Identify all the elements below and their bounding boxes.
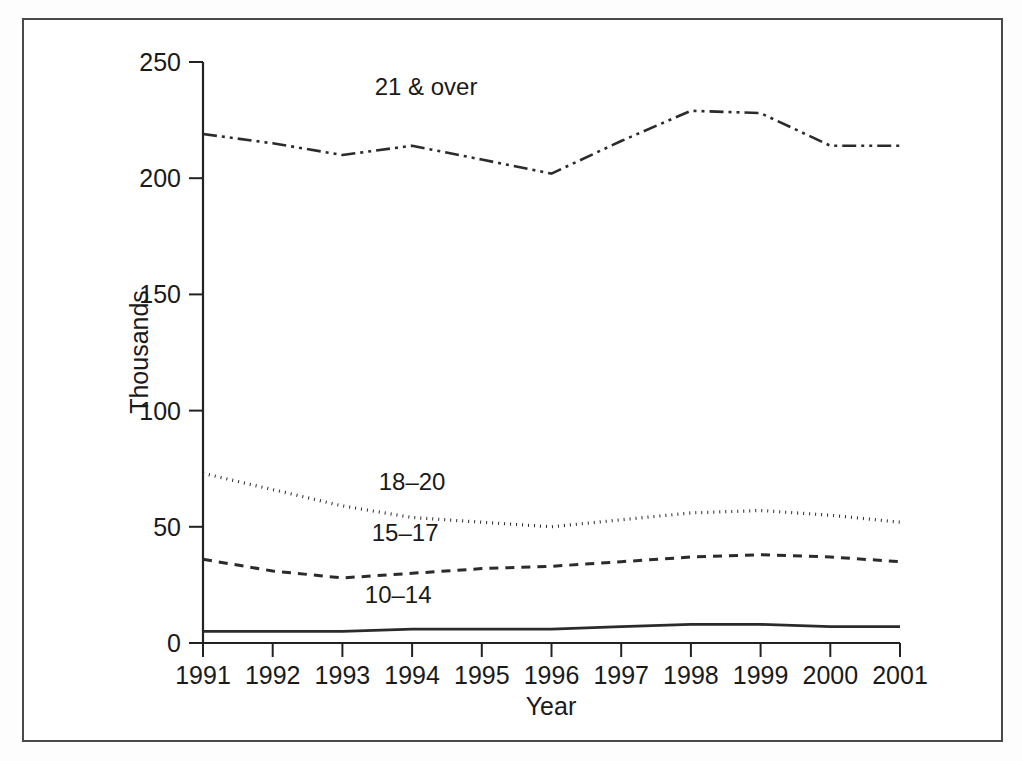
x-tick-label: 2000 — [802, 661, 858, 689]
x-axis-ticks: 1991199219931994199519961997199819992000… — [175, 643, 928, 689]
series-line-18-20 — [203, 473, 900, 527]
y-tick-label: 200 — [139, 164, 181, 192]
y-tick-label: 50 — [153, 513, 181, 541]
x-tick-label: 1998 — [663, 661, 719, 689]
x-tick-label: 1994 — [384, 661, 440, 689]
series-label-10-14: 10–14 — [365, 581, 432, 608]
x-tick-label: 1999 — [733, 661, 789, 689]
series-line-10-14 — [203, 624, 900, 631]
x-tick-label: 1992 — [245, 661, 301, 689]
series-label-15-17: 15–17 — [372, 519, 439, 546]
x-tick-label: 1995 — [454, 661, 510, 689]
x-tick-label: 1996 — [524, 661, 580, 689]
x-tick-label: 2001 — [872, 661, 928, 689]
figure-root: 050100150200250 199119921993199419951996… — [0, 0, 1022, 761]
y-axis-title: Thousands — [125, 290, 153, 414]
series-annotations-group: 21 & over18–2015–1710–14 — [365, 73, 478, 609]
y-tick-label: 250 — [139, 48, 181, 76]
y-tick-label: 0 — [167, 629, 181, 657]
series-label-21-over: 21 & over — [375, 73, 478, 100]
x-tick-label: 1993 — [315, 661, 371, 689]
x-tick-label: 1991 — [175, 661, 231, 689]
series-line-15-17 — [203, 555, 900, 578]
series-label-18-20: 18–20 — [379, 468, 446, 495]
x-axis-title: Year — [526, 692, 577, 720]
series-line-21-over — [203, 111, 900, 174]
x-tick-label: 1997 — [593, 661, 649, 689]
line-chart: 050100150200250 199119921993199419951996… — [0, 0, 1022, 761]
chart-series-group — [203, 111, 900, 632]
